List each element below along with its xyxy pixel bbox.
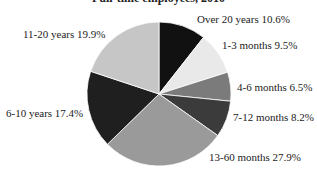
slice-label: 6-10 years 17.4% xyxy=(6,107,83,119)
slice-label: 4-6 months 6.5% xyxy=(237,81,312,93)
pie-chart: Over 20 years 10.6%1-3 months 9.5%4-6 mo… xyxy=(0,0,317,175)
slice-label: 1-3 months 9.5% xyxy=(222,39,297,51)
slice-label: 7-12 months 8.2% xyxy=(233,111,314,123)
slice-label: Over 20 years 10.6% xyxy=(197,13,290,25)
slice-label: 11-20 years 19.9% xyxy=(23,28,105,40)
slice-label: 13-60 months 27.9% xyxy=(209,151,301,163)
